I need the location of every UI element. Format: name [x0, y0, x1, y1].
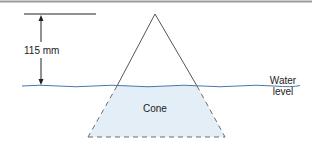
arrowhead-up-icon: [39, 15, 44, 21]
water-level-label: Water level: [262, 75, 304, 97]
water-label-line1: Water: [262, 75, 304, 86]
cone-label: Cone: [143, 103, 167, 114]
diagram-canvas: 115 mm Cone Water level: [0, 0, 312, 149]
arrowhead-down-icon: [39, 79, 44, 85]
dimension-label: 115 mm: [24, 44, 59, 57]
water-label-line2: level: [262, 86, 304, 97]
cone-outline-above-water: [117, 14, 197, 86]
water-line: [22, 85, 300, 87]
